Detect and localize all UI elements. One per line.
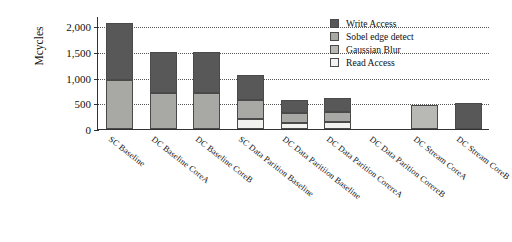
legend-label: Write Access bbox=[346, 18, 397, 30]
bar-group[interactable] bbox=[106, 16, 133, 129]
legend-item[interactable]: Read Access bbox=[330, 57, 414, 69]
bar-segment[interactable] bbox=[150, 93, 177, 129]
x-tick-label: SC Data Parition Baseline bbox=[237, 134, 316, 199]
y-tick-label: 500 bbox=[75, 98, 92, 110]
bar-group[interactable] bbox=[281, 16, 308, 129]
plot-area bbox=[97, 17, 489, 130]
legend: Write AccessSobel edge detectGaussian Bl… bbox=[330, 18, 414, 70]
bar-group[interactable] bbox=[150, 16, 177, 129]
x-tick-label: DC Data Paritiion Baseline bbox=[281, 134, 363, 201]
bar-segment[interactable] bbox=[411, 105, 438, 129]
y-tick-label: 1,500 bbox=[66, 47, 91, 59]
y-tick-label: 1,000 bbox=[66, 73, 91, 85]
legend-item[interactable]: Write Access bbox=[330, 18, 414, 30]
y-tick-label: 2,000 bbox=[66, 21, 91, 33]
bar-segment[interactable] bbox=[106, 80, 133, 129]
x-axis-tick-labels: SC BaselineDC Baseline CoreADC Baseline … bbox=[97, 132, 489, 240]
x-tick-label: DC Data Parition CorereA bbox=[324, 134, 404, 200]
legend-label: Sobel edge detect bbox=[346, 31, 414, 43]
y-axis-title: Mcycles bbox=[33, 1, 45, 91]
bar-segment[interactable] bbox=[455, 103, 482, 129]
bar-segment[interactable] bbox=[106, 23, 133, 80]
bar-segment[interactable] bbox=[324, 122, 351, 129]
legend-item[interactable]: Gaussian Blur bbox=[330, 44, 414, 56]
legend-item[interactable]: Sobel edge detect bbox=[330, 31, 414, 43]
bar-segment[interactable] bbox=[150, 52, 177, 93]
bar-group[interactable] bbox=[193, 16, 220, 129]
legend-swatch-icon bbox=[330, 58, 339, 67]
y-axis-tick bbox=[94, 130, 99, 131]
bar-group[interactable] bbox=[237, 16, 264, 129]
legend-swatch-icon bbox=[330, 45, 339, 54]
legend-swatch-icon bbox=[330, 32, 339, 41]
bar-segment[interactable] bbox=[237, 100, 264, 118]
bar-segment[interactable] bbox=[237, 119, 264, 129]
bar-segment[interactable] bbox=[324, 98, 351, 112]
x-tick-label: DC Data Parition CorereB bbox=[368, 134, 448, 199]
bar-group[interactable] bbox=[455, 16, 482, 129]
bar-segment[interactable] bbox=[237, 75, 264, 101]
bar-series-container bbox=[98, 17, 489, 129]
bar-segment[interactable] bbox=[281, 100, 308, 113]
bar-segment[interactable] bbox=[281, 123, 308, 129]
legend-label: Gaussian Blur bbox=[346, 44, 401, 56]
bar-segment[interactable] bbox=[324, 112, 351, 122]
legend-swatch-icon bbox=[330, 19, 339, 28]
y-axis-tick-labels: 05001,0001,5002,000 bbox=[45, 17, 91, 130]
bar-segment[interactable] bbox=[193, 52, 220, 93]
x-tick-label: SC Baseline bbox=[107, 134, 147, 169]
legend-label: Read Access bbox=[346, 57, 395, 69]
y-tick-label: 0 bbox=[86, 124, 92, 136]
bar-group[interactable] bbox=[411, 16, 438, 129]
bar-segment[interactable] bbox=[193, 93, 220, 129]
bar-segment[interactable] bbox=[281, 113, 308, 123]
